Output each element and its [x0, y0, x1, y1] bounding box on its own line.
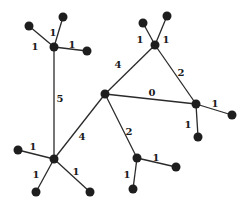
node-B	[50, 43, 59, 52]
node-C	[50, 155, 59, 164]
node-D	[151, 41, 160, 50]
node-D2	[163, 12, 172, 21]
node-E	[192, 100, 201, 109]
edge-weight-label: 2	[178, 67, 185, 78]
node-D1	[139, 19, 148, 28]
node-E1	[228, 111, 237, 120]
edge-weight-label: 0	[149, 87, 156, 98]
edge-weight-label: 1	[137, 34, 144, 45]
edge-weight-label: 1	[50, 27, 57, 38]
edge-E-E2	[196, 104, 198, 137]
edge-weight-label: 1	[69, 39, 76, 50]
edge-weight-label: 1	[185, 119, 192, 130]
edge-weight-label: 1	[212, 98, 219, 109]
edge-weight-label: 1	[124, 169, 131, 180]
node-F	[133, 154, 142, 163]
node-E2	[194, 133, 203, 142]
edge-weight-label: 2	[126, 126, 133, 137]
edge-A-D	[105, 45, 155, 94]
node-F2	[129, 185, 138, 194]
edge-F-F2	[133, 158, 137, 189]
edge-weight-label: 4	[79, 131, 86, 142]
node-A	[101, 90, 110, 99]
edge-weight-label: 1	[153, 152, 160, 163]
node-C2	[32, 188, 41, 197]
edge-D-E	[155, 45, 196, 104]
edge-A-C	[54, 94, 105, 159]
edge-weight-label: 5	[57, 93, 64, 104]
node-C3	[86, 188, 95, 197]
node-B2	[59, 13, 68, 22]
node-F1	[172, 163, 181, 172]
edge-weight-label: 1	[163, 34, 170, 45]
node-C1	[14, 146, 23, 155]
weighted-tree-diagram: 420425111111111111	[0, 0, 246, 202]
node-B1	[25, 22, 34, 31]
edge-weight-label: 4	[115, 59, 122, 70]
edge-weight-label: 1	[32, 41, 39, 52]
edge-weight-label: 1	[30, 141, 37, 152]
edge-weight-label: 1	[73, 166, 80, 177]
edge-weight-label: 1	[33, 169, 40, 180]
node-B3	[83, 47, 92, 56]
